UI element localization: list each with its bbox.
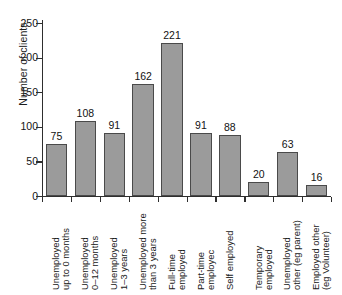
bar-value-label: 91	[185, 120, 217, 131]
category-label-line1: Self employed	[224, 231, 235, 290]
category-label-line2: other (eg parent)	[293, 220, 303, 290]
bar-value-label: 20	[243, 169, 275, 180]
bar-value-label: 88	[214, 122, 246, 133]
category-label: Unemployedother (eg parent)	[282, 220, 303, 290]
bar	[190, 133, 211, 196]
bar	[75, 121, 96, 196]
bar	[306, 185, 327, 196]
bar-value-label: 108	[69, 108, 101, 119]
bar	[104, 133, 125, 196]
category-label-line2: employec	[206, 250, 216, 290]
category-label-line2: employed	[264, 246, 274, 290]
bar-value-label: 16	[301, 172, 333, 183]
category-label: Unemployed0–12 months	[80, 236, 101, 290]
bar	[132, 84, 153, 196]
category-label-line1: Part-time	[195, 252, 206, 290]
category-label: Part-timeemployec	[196, 250, 217, 290]
category-label: Unemployedup to 0 months	[51, 228, 72, 290]
category-label: Employed other(eg Volunteer)	[311, 224, 332, 290]
bar-value-label: 221	[156, 30, 188, 41]
bar-value-label: 75	[40, 131, 72, 142]
bar	[219, 135, 240, 196]
bar-value-label: 162	[127, 71, 159, 82]
bar-value-label: 63	[272, 139, 304, 150]
category-label: Full-timeemployed	[167, 249, 188, 290]
category-label-line1: Full-time	[166, 254, 177, 290]
bar	[46, 144, 67, 196]
category-label-line1: Unemployed more	[137, 213, 148, 290]
category-label-line2: (eg Volunteer)	[322, 224, 332, 290]
category-label: Temporaryemployed	[254, 246, 275, 290]
category-label-line2: 1–3 years	[119, 237, 129, 290]
category-label-line1: Temporary	[253, 246, 264, 290]
bar-value-label: 91	[98, 120, 130, 131]
category-label-line2: 0–12 months	[91, 236, 101, 290]
category-label-line2: employed	[177, 249, 187, 290]
bar	[248, 182, 269, 196]
category-label: Self employed	[225, 231, 235, 290]
category-label-line1: Unemployed	[108, 237, 119, 290]
category-label: Unemployed1–3 years	[109, 237, 130, 290]
category-label-line2: than 3 years	[148, 213, 158, 290]
bar	[161, 43, 182, 196]
bar-chart-figure: Number of clients 050100150200250 751089…	[0, 0, 342, 295]
category-label-line2: up to 0 months	[62, 228, 72, 290]
category-label: Unemployed morethan 3 years	[138, 213, 159, 290]
bar	[277, 152, 298, 196]
